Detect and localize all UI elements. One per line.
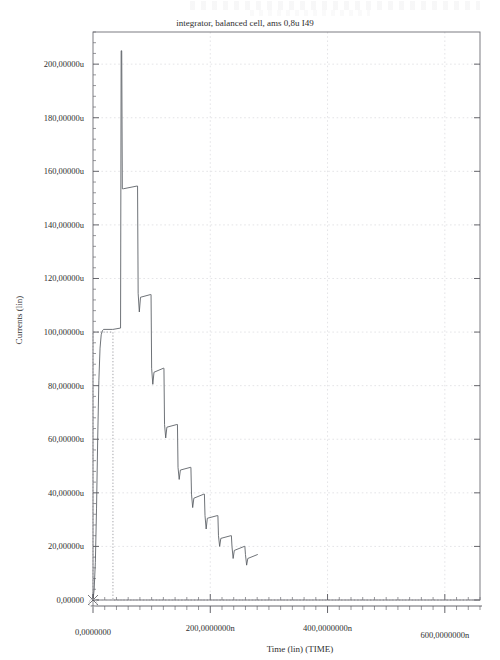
y-tick-label: 200,00000u [44, 59, 85, 69]
reference-trace [93, 332, 480, 600]
y-tick-label: 160,00000u [44, 166, 85, 176]
y-axis-title: Currents (lin) [14, 296, 24, 345]
marker-layer [88, 594, 98, 607]
x-tick-label: 400,0000000n [303, 623, 353, 633]
origin-marker [88, 594, 98, 607]
signal-trace [93, 51, 258, 600]
plot-canvas: 0,0000020,00000u40,00000u60,00000u80,000… [0, 0, 500, 660]
y-tick-label: 60,00000u [48, 434, 85, 444]
waveform-chart: 0,0000020,00000u40,00000u60,00000u80,000… [0, 0, 500, 660]
y-tick-label: 20,00000u [48, 541, 85, 551]
x-tick-label: 200,0000000n [186, 623, 236, 633]
y-tick-label: 100,00000u [44, 327, 85, 337]
y-tick-label: 80,00000u [48, 381, 85, 391]
y-tick-label: 40,00000u [48, 488, 85, 498]
chart-title: integrator, balanced cell, ams 0,8u I49 [176, 18, 314, 28]
y-tick-label: 120,00000u [44, 273, 85, 283]
x-axis-title: Time (lin) (TIME) [267, 644, 334, 654]
y-tick-label: 180,00000u [44, 113, 85, 123]
axis-ticks [91, 32, 482, 613]
x-tick-label: 600,0000000n [420, 630, 470, 640]
axis-labels-layer: 0,0000020,00000u40,00000u60,00000u80,000… [44, 59, 470, 640]
data-series-layer [93, 51, 480, 600]
y-tick-label: 140,00000u [44, 220, 85, 230]
y-tick-label: 0,00000 [56, 595, 84, 605]
x-tick-label: 0,0000000 [75, 627, 111, 637]
